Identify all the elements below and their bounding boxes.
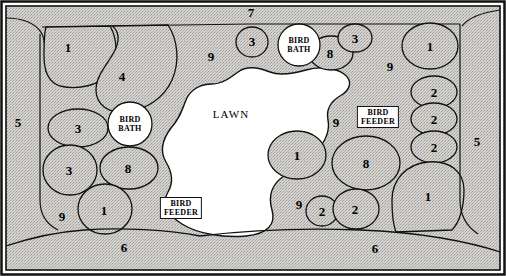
bed-shape-2-right-b xyxy=(411,103,457,135)
bed-shape-1-bottomright xyxy=(392,162,464,232)
garden-plan-diagram: LAWN BIRD BATH BIRD BATH BIRD FEEDER BIR… xyxy=(0,0,506,276)
bed-shape-2-bottom-b xyxy=(333,189,379,229)
bed-shape-3-lower xyxy=(43,145,97,195)
bird-bath-circle-left xyxy=(108,102,152,146)
bed-shape-8-rightmid xyxy=(332,136,400,190)
bed-shape-2-right-c xyxy=(411,131,457,163)
bird-bath-circle-top xyxy=(278,24,320,66)
plan-canvas xyxy=(0,0,506,276)
bed-shape-8-left xyxy=(100,147,158,189)
bed-shape-3-topmid xyxy=(236,27,268,57)
bed-shape-1-lowerleft xyxy=(78,184,132,234)
bed-shape-3-upper xyxy=(48,109,108,147)
bed-shape-3-topright xyxy=(338,24,372,52)
bed-shape-1-rightmid xyxy=(268,131,326,179)
bed-shape-1-topright xyxy=(402,23,458,69)
